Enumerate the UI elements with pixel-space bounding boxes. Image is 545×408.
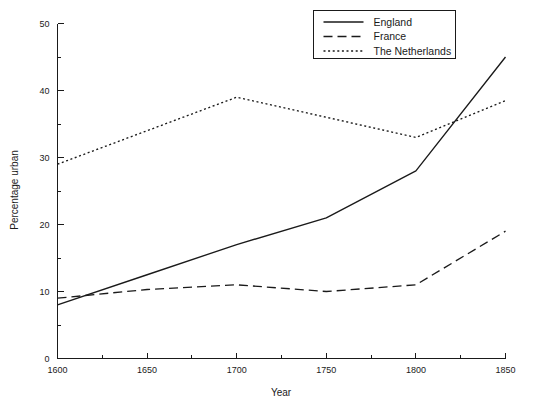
x-tick-label: 1700: [227, 365, 247, 375]
y-axis-title: Percentage urban: [9, 150, 20, 230]
urbanization-line-chart: 01020304050 160016501700175018001850 Eng…: [0, 0, 545, 408]
x-tick-label: 1850: [495, 365, 515, 375]
legend-label-england: England: [374, 16, 413, 28]
chart-legend: EnglandFranceThe Netherlands: [314, 11, 456, 59]
y-axis: 01020304050: [39, 19, 63, 364]
legend-label-france: France: [374, 30, 407, 42]
y-tick-label: 20: [39, 220, 49, 230]
y-tick-label: 0: [44, 354, 49, 364]
y-tick-label: 10: [39, 287, 49, 297]
x-axis-title: Year: [271, 387, 292, 398]
y-tick-label: 40: [39, 86, 49, 96]
chart-canvas: 01020304050 160016501700175018001850 Eng…: [0, 0, 545, 408]
x-tick-label: 1750: [316, 365, 336, 375]
x-axis: 160016501700175018001850: [47, 353, 515, 375]
x-tick-label: 1600: [47, 365, 67, 375]
series-line-the-netherlands: [58, 97, 506, 164]
y-tick-label: 30: [39, 153, 49, 163]
series-lines: [58, 57, 506, 305]
series-line-france: [58, 231, 506, 298]
x-tick-label: 1800: [406, 365, 426, 375]
legend-label-the-netherlands: The Netherlands: [374, 45, 452, 57]
x-tick-label: 1650: [137, 365, 157, 375]
y-tick-label: 50: [39, 19, 49, 29]
series-line-england: [58, 57, 506, 305]
